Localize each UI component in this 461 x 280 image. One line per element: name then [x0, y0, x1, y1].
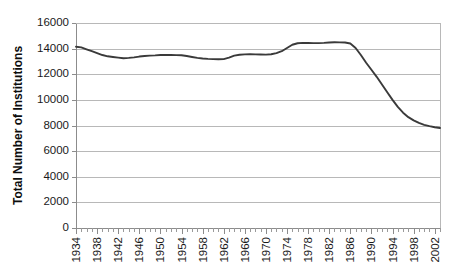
- y-tick-label: 4000: [43, 170, 69, 182]
- x-tick-label: 1978: [302, 237, 314, 263]
- x-tick-label: 1970: [260, 237, 272, 263]
- x-tick-label: 1958: [197, 237, 209, 263]
- y-tick-label: 14000: [37, 42, 69, 54]
- y-tick-label: 16000: [37, 16, 69, 28]
- x-tick-label: 1938: [91, 237, 103, 263]
- y-tick-label: 6000: [43, 144, 69, 156]
- x-tick-label: 1986: [344, 237, 356, 263]
- x-tick-label: 1994: [387, 236, 399, 262]
- x-tick-label: 1950: [154, 237, 166, 263]
- x-tick-label: 1962: [218, 237, 230, 263]
- y-axis-title-text: Total Number of Institutions: [11, 46, 25, 205]
- line-chart: 0200040006000800010000120001400016000 19…: [0, 0, 461, 280]
- x-tick-label: 1974: [281, 236, 293, 262]
- x-tick-label: 1990: [365, 237, 377, 263]
- x-tick-label: 1934: [70, 236, 82, 262]
- x-tick-label: 1954: [176, 236, 188, 262]
- y-tick-label: 8000: [43, 119, 69, 131]
- x-tick-label: 2002: [429, 237, 441, 263]
- y-axis-title: Total Number of Institutions: [11, 46, 25, 205]
- x-tick-label: 1982: [323, 237, 335, 263]
- x-tick-label: 1966: [239, 237, 251, 263]
- y-tick-label: 12000: [37, 67, 69, 79]
- x-tick-label: 1998: [408, 237, 420, 263]
- chart-canvas: 0200040006000800010000120001400016000 19…: [0, 0, 461, 280]
- x-tick-label: 1946: [133, 237, 145, 263]
- x-tick-label: 1942: [112, 237, 124, 263]
- y-tick-label: 10000: [37, 93, 69, 105]
- y-tick-label: 0: [63, 221, 69, 233]
- y-tick-label: 2000: [43, 195, 69, 207]
